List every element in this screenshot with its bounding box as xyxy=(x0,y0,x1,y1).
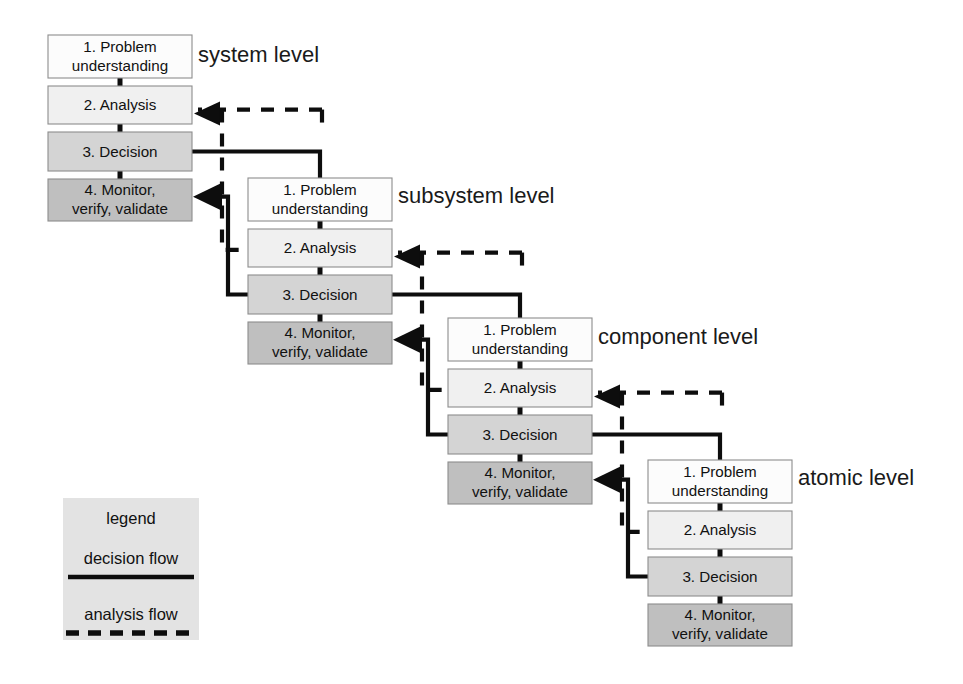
level-title-system: system level xyxy=(198,42,319,67)
box-monitor-verify-validate-label-line2: verify, validate xyxy=(272,343,368,360)
box-problem-understanding-label-line2: understanding xyxy=(272,200,368,217)
diagram-svg: legend decision flow analysis flow 1. Pr… xyxy=(0,0,963,684)
level-title-component: component level xyxy=(598,324,758,349)
box-monitor-verify-validate-label-line2: verify, validate xyxy=(472,483,568,500)
diagram-canvas: legend decision flow analysis flow 1. Pr… xyxy=(0,0,963,684)
analysis-flow-descend-system xyxy=(222,110,244,250)
box-analysis-label: 2. Analysis xyxy=(84,96,157,113)
box-decision-label: 3. Decision xyxy=(482,426,557,443)
decision-return-flow-system xyxy=(214,197,248,295)
decision-return-flow-component xyxy=(614,480,648,577)
legend: legend decision flow analysis flow xyxy=(63,498,199,640)
decision-flow-down-subsystem xyxy=(392,295,520,321)
analysis-flow-arrowhead-system xyxy=(194,102,220,126)
decision-flow-down-component xyxy=(592,435,720,463)
box-problem-understanding-system: 1. Problemunderstanding xyxy=(48,35,192,78)
box-analysis-label: 2. Analysis xyxy=(684,521,757,538)
box-analysis-subsystem: 2. Analysis xyxy=(248,229,392,267)
box-problem-understanding-label-line2: understanding xyxy=(72,57,168,74)
box-problem-understanding-label-line2: understanding xyxy=(472,340,568,357)
box-decision-label: 3. Decision xyxy=(82,143,157,160)
box-analysis-label: 2. Analysis xyxy=(284,239,357,256)
box-analysis-label: 2. Analysis xyxy=(484,379,557,396)
box-decision-label: 3. Decision xyxy=(282,286,357,303)
box-problem-understanding-subsystem: 1. Problemunderstanding xyxy=(248,178,392,221)
decision-return-flow-subsystem xyxy=(414,340,448,435)
box-problem-understanding-component: 1. Problemunderstanding xyxy=(448,318,592,361)
level-column-atomic: 1. Problemunderstanding2. Analysis3. Dec… xyxy=(648,460,914,646)
box-monitor-verify-validate-label-line2: verify, validate xyxy=(672,625,768,642)
box-analysis-system: 2. Analysis xyxy=(48,86,192,124)
decision-return-arrowhead-subsystem xyxy=(393,326,422,354)
box-problem-understanding-label-line1: 1. Problem xyxy=(483,321,556,338)
analysis-flow-descend-component xyxy=(622,393,644,532)
box-problem-understanding-label-line1: 1. Problem xyxy=(283,181,356,198)
box-decision-atomic: 3. Decision xyxy=(648,557,792,596)
box-problem-understanding-label-line1: 1. Problem xyxy=(683,463,756,480)
box-analysis-atomic: 2. Analysis xyxy=(648,511,792,549)
box-problem-understanding-label-line2: understanding xyxy=(672,482,768,499)
box-decision-subsystem: 3. Decision xyxy=(248,275,392,314)
box-decision-system: 3. Decision xyxy=(48,132,192,171)
box-monitor-verify-validate-label-line2: verify, validate xyxy=(72,200,168,217)
box-monitor-verify-validate-label-line1: 4. Monitor, xyxy=(685,606,756,623)
box-analysis-component: 2. Analysis xyxy=(448,369,592,407)
box-monitor-verify-validate-label-line1: 4. Monitor, xyxy=(485,464,556,481)
box-monitor-verify-validate-label-line1: 4. Monitor, xyxy=(285,324,356,341)
box-decision-label: 3. Decision xyxy=(682,568,757,585)
level-title-atomic: atomic level xyxy=(798,465,914,490)
analysis-flow-descend-subsystem xyxy=(422,253,444,390)
box-monitor-verify-validate-label-line1: 4. Monitor, xyxy=(85,181,156,198)
box-problem-understanding-label-line1: 1. Problem xyxy=(83,38,156,55)
box-problem-understanding-atomic: 1. Problemunderstanding xyxy=(648,460,792,503)
level-title-subsystem: subsystem level xyxy=(398,183,555,208)
decision-return-arrowhead-component xyxy=(593,466,622,494)
decision-flow-down-system xyxy=(192,152,320,181)
analysis-flow-arrowhead-subsystem xyxy=(394,245,420,269)
legend-label-decision-flow: decision flow xyxy=(84,549,179,567)
decision-return-arrowhead-system xyxy=(193,183,222,211)
legend-title: legend xyxy=(106,509,156,527)
box-monitor-verify-validate-system: 4. Monitor,verify, validate xyxy=(48,179,192,221)
legend-label-analysis-flow: analysis flow xyxy=(84,605,178,623)
box-monitor-verify-validate-subsystem: 4. Monitor,verify, validate xyxy=(248,322,392,364)
box-monitor-verify-validate-component: 4. Monitor,verify, validate xyxy=(448,462,592,504)
analysis-flow-arrowhead-component xyxy=(594,385,620,409)
box-decision-component: 3. Decision xyxy=(448,415,592,454)
box-monitor-verify-validate-atomic: 4. Monitor,verify, validate xyxy=(648,604,792,646)
